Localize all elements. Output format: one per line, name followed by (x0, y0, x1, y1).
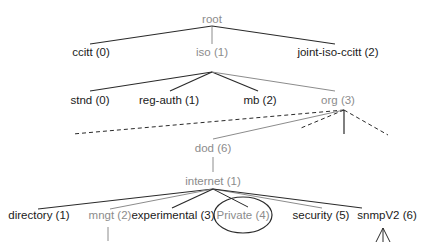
node-internet: internet (1) (185, 174, 241, 188)
edge-snmpv2-left (376, 228, 383, 242)
edge-root-ccitt (90, 26, 212, 44)
edge-org-dashed-mid (301, 110, 344, 128)
node-snmpv2: snmpV2 (6) (357, 208, 416, 222)
node-stnd: stnd (0) (71, 93, 110, 107)
node-security: security (5) (293, 208, 350, 222)
node-mngt: mngt (2) (89, 208, 132, 222)
edge-iso-org (212, 72, 335, 91)
edge-org-dashed-left (73, 110, 344, 134)
node-reg-auth: reg-auth (1) (139, 93, 199, 107)
edge-org-dod (213, 110, 344, 139)
edge-org-dashed-right (344, 110, 388, 135)
node-private: Private (4) (216, 208, 269, 222)
edge-iso-stnd (90, 72, 212, 91)
edge-root-joint (212, 26, 335, 44)
node-root: root (202, 12, 222, 26)
edge-snmpv2-right (383, 228, 390, 242)
edge-internet-snmpv2 (213, 189, 362, 208)
node-ccitt: ccitt (0) (72, 45, 110, 59)
node-joint-iso-ccitt: joint-iso-ccitt (2) (297, 45, 378, 59)
node-experimental: experimental (3) (131, 208, 214, 222)
node-org: org (3) (321, 93, 355, 107)
node-directory: directory (1) (8, 208, 69, 222)
edge-iso-mb (212, 72, 258, 91)
node-mb: mb (2) (243, 93, 276, 107)
node-dod: dod (6) (195, 141, 231, 155)
node-iso: iso (1) (196, 45, 228, 59)
